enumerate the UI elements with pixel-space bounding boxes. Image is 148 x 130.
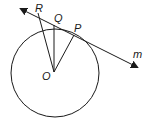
label-Q: Q [54,12,63,24]
label-P: P [74,22,82,34]
label-O: O [42,70,51,82]
tangent-line-m-left [21,9,79,38]
tangent-line-m [79,38,137,67]
circle [11,29,99,117]
segment-OP [54,35,74,72]
label-m: m [133,48,142,60]
label-R: R [35,2,43,14]
geometry-diagram: R Q P O m [0,0,148,130]
